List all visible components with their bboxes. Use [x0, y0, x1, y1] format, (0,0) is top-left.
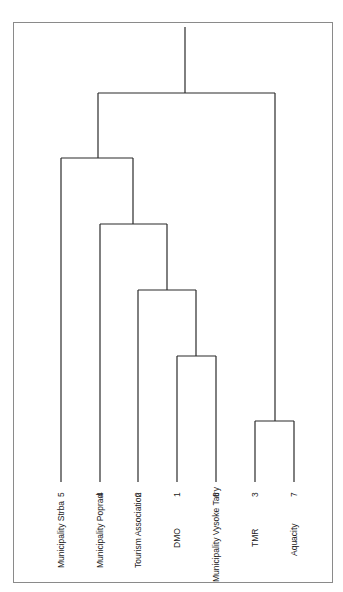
leaf-number: 7	[289, 492, 299, 497]
dendrogram	[0, 0, 343, 592]
leaf-label: Municipality Strba	[56, 501, 66, 568]
leaf-label: Municipality Poprad	[95, 494, 105, 568]
leaf-number: 1	[172, 492, 182, 497]
leaf-number: 3	[250, 492, 260, 497]
leaf-label: DMO	[172, 528, 182, 548]
leaf-label: TMR	[250, 529, 260, 547]
leaf-label: Aquacity	[289, 523, 299, 556]
leaf-label: Municipality Vysoke Tatry	[211, 487, 221, 582]
leaf-label: Tourism Association	[133, 493, 143, 568]
leaf-number: 5	[56, 492, 66, 497]
